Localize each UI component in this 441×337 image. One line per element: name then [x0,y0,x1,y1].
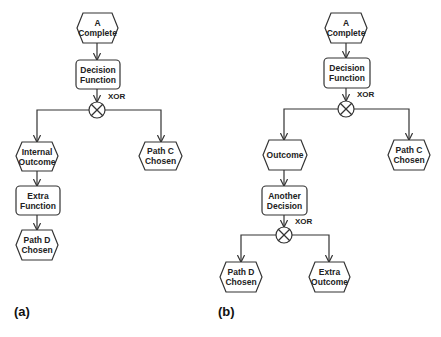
function-decision-b: Decision Function [324,58,370,88]
event-outcome: Outcome [263,140,307,170]
xor-label-b-second: XOR [295,217,312,226]
event-path-c-chosen: Path C Chosen [139,142,182,170]
function-another-decision: Another Decision [262,186,307,215]
event-path-c-chosen-b: Path C Chosen [388,140,430,170]
caption-a: (a) [14,304,30,319]
function-decision: Decision Function [76,60,120,89]
event-extra-outcome: Extra Outcome [309,262,350,292]
function-extra: Extra Function [16,186,60,215]
event-a-complete: A Complete [77,13,118,43]
event-path-d-chosen-b: Path D Chosen [220,262,262,292]
xor-label: XOR [108,92,125,101]
xor-label-b: XOR [357,90,374,99]
epc-diagram-figure: A Complete Decision Function XOR Interna… [0,0,441,337]
event-path-d-chosen: Path D Chosen [16,230,58,260]
event-internal-outcome: Internal Outcome [16,142,58,171]
event-a-complete-b: A Complete [325,13,367,43]
caption-b: (b) [218,304,235,319]
